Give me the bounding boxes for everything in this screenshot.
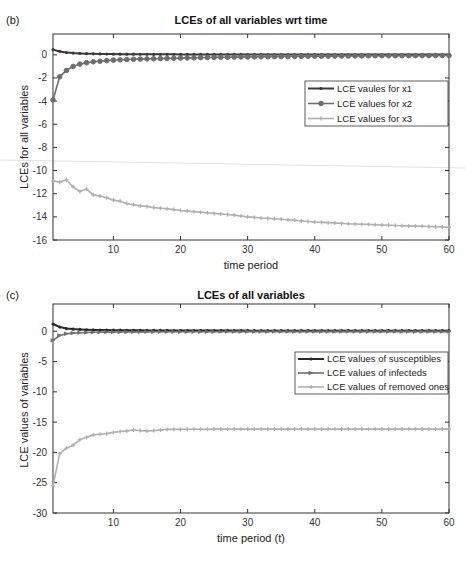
data-point [226,427,230,431]
data-point [339,54,344,59]
y-tick-label: -2 [38,72,47,83]
data-point [212,427,216,431]
legend-label: LCE values of removed ones [327,381,449,392]
data-point [232,213,236,217]
data-point [105,196,109,200]
data-point [313,427,317,431]
y-tick-label: -20 [33,447,48,458]
data-point [198,55,203,60]
data-point [306,427,310,431]
y-tick-label: -16 [33,235,48,246]
series-3 [51,427,451,488]
data-point [259,427,263,431]
chart-title: LCEs of all variables [197,289,305,301]
data-point [393,53,398,58]
data-point [185,427,189,431]
data-point [138,57,143,62]
x-tick-label: 60 [443,517,455,528]
data-point [380,53,385,58]
data-point [145,204,149,208]
data-point [51,98,56,103]
data-point [279,427,283,431]
data-point [272,427,276,431]
data-point [266,427,270,431]
x-tick-label: 50 [376,517,388,528]
data-point [199,427,203,431]
data-point [165,427,169,431]
data-point [259,54,264,59]
data-point [58,50,61,53]
chart-title: LCEs of all variables wrt time [175,14,328,26]
data-point [125,429,129,433]
figure: (b) LCEs of all variables wrt time 10203… [0,0,466,561]
data-point [306,54,311,59]
data-point [413,224,417,228]
data-point [78,328,81,331]
y-tick-label: 0 [41,326,47,337]
data-point [245,55,250,60]
y-tick-label: -10 [33,165,48,176]
data-point [359,54,364,59]
data-point [239,55,244,60]
data-point [51,179,55,183]
x-tick-label: 20 [175,517,187,528]
data-point [246,427,250,431]
panel-label: (b) [6,14,19,26]
data-point [51,48,54,51]
data-point [340,427,344,431]
data-point [185,56,190,61]
data-point [212,211,216,215]
data-point [58,180,62,184]
y-axis-label: LCE values of variables [18,352,30,468]
data-point [386,53,391,58]
data-point [293,427,297,431]
data-point [434,427,438,431]
data-point [179,427,183,431]
data-point [98,52,101,55]
data-point [165,207,169,211]
legend: LCE values of susceptiblesLCE values of … [295,352,449,394]
data-point [333,221,337,225]
chart-panel-c: (c) LCEs of all variables 102030405060 0… [6,289,455,544]
data-point [105,432,109,436]
data-point [131,57,136,62]
data-point [427,427,431,431]
y-tick-label: 0 [41,49,47,60]
data-point [353,427,357,431]
data-point [51,322,54,325]
legend-marker [319,101,324,106]
data-point [406,53,411,58]
data-point [340,221,344,225]
data-point [366,222,370,226]
data-point [293,218,297,222]
data-point [172,427,176,431]
data-point [353,54,358,59]
data-point [447,427,451,431]
data-point [205,211,209,215]
data-point [58,325,61,328]
data-point [98,59,103,64]
data-point [152,53,155,56]
legend-label: LCE values of susceptibles [327,353,441,364]
data-point [373,54,378,59]
legend-label: LCE values for x3 [337,113,412,124]
data-point [447,225,451,229]
y-tick-label: -14 [33,211,48,222]
y-tick-label: -4 [38,96,47,107]
data-point [387,223,391,227]
series-3 [51,178,451,229]
data-point [218,55,223,60]
data-point [252,55,257,60]
data-point [172,208,176,212]
data-point [225,55,230,60]
data-point [346,222,350,226]
data-point [360,427,364,431]
data-point [346,54,351,59]
data-point [119,53,122,56]
data-point [319,54,324,59]
data-point [166,53,169,56]
y-tick-label: -15 [33,417,48,428]
data-point [72,328,75,331]
data-point [326,221,330,225]
data-point [185,209,189,213]
